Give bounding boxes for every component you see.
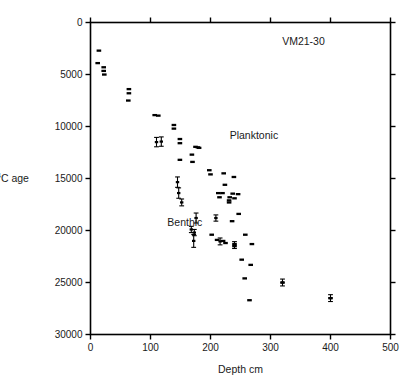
data-point xyxy=(216,192,221,194)
data-point xyxy=(220,192,225,194)
data-point xyxy=(197,147,202,149)
axis-ticks xyxy=(86,18,396,340)
planktonic-series-label: Planktonic xyxy=(230,129,278,141)
data-point xyxy=(126,99,131,101)
data-point xyxy=(329,297,332,299)
data-point xyxy=(190,161,195,163)
data-point xyxy=(281,281,284,283)
y-tick-label: 15000 xyxy=(55,173,83,184)
data-point xyxy=(232,197,237,199)
figure-container: 0100200300400500050001000015000200002500… xyxy=(0,0,418,387)
data-point xyxy=(178,138,183,140)
data-point xyxy=(227,201,232,203)
data-point xyxy=(172,124,177,126)
data-point xyxy=(239,259,244,261)
data-point xyxy=(192,240,195,242)
data-point xyxy=(227,196,232,198)
data-point xyxy=(207,169,212,171)
data-point xyxy=(221,172,226,174)
y-axis-title: 14C age xyxy=(0,172,29,184)
data-point xyxy=(230,220,235,222)
x-tick-label: 200 xyxy=(202,342,219,353)
series-planktonic xyxy=(95,49,332,301)
x-tick-label: 400 xyxy=(322,342,339,353)
x-tick-label: 100 xyxy=(142,342,159,353)
data-point xyxy=(160,140,163,142)
core-id-label: VM21-30 xyxy=(282,35,325,47)
plot-frame xyxy=(91,23,391,335)
y-tick-label: 25000 xyxy=(55,277,83,288)
data-point xyxy=(95,62,100,64)
data-point xyxy=(180,201,183,203)
data-point xyxy=(155,141,158,143)
x-axis-title: Depth cm xyxy=(218,363,263,375)
data-point xyxy=(102,73,107,75)
y-tick-label: 30000 xyxy=(55,329,83,340)
data-point xyxy=(214,217,217,219)
data-point xyxy=(101,70,106,72)
data-point xyxy=(242,277,247,279)
x-tick-label: 500 xyxy=(382,342,399,353)
data-point xyxy=(156,114,161,116)
data-point xyxy=(217,196,222,198)
x-tick-label: 300 xyxy=(262,342,279,353)
data-point xyxy=(243,234,248,236)
data-point xyxy=(223,242,228,244)
data-point xyxy=(227,199,232,201)
data-point xyxy=(177,192,180,194)
data-point xyxy=(236,193,241,195)
data-point xyxy=(127,88,132,90)
data-point xyxy=(178,159,183,161)
y-tick-label: 0 xyxy=(77,17,83,28)
data-point xyxy=(172,127,177,129)
axes-frame xyxy=(91,23,391,335)
data-point xyxy=(208,173,213,175)
data-point xyxy=(223,184,228,186)
data-point xyxy=(247,299,252,301)
data-point xyxy=(190,153,195,155)
data-point xyxy=(230,192,235,194)
data-point xyxy=(127,92,132,94)
data-point xyxy=(236,213,241,215)
benthic-series-label: Benthic xyxy=(167,216,202,228)
data-point xyxy=(250,243,255,245)
data-point xyxy=(101,66,106,68)
x-tick-label: 0 xyxy=(88,342,94,353)
data-point xyxy=(209,234,214,236)
data-point xyxy=(193,231,196,233)
data-point xyxy=(176,181,179,183)
data-point xyxy=(233,244,236,246)
plot-annotations: VM21-30PlanktonicBenthic xyxy=(167,35,325,228)
data-point xyxy=(178,142,183,144)
y-tick-label: 10000 xyxy=(55,121,83,132)
scatter-plot: 0100200300400500050001000015000200002500… xyxy=(0,0,418,387)
y-tick-label: 5000 xyxy=(60,69,83,80)
axis-titles: Depth cm14C age xyxy=(0,172,263,375)
data-point xyxy=(232,176,237,178)
data-point xyxy=(248,264,253,266)
data-point xyxy=(218,240,221,242)
y-tick-label: 20000 xyxy=(55,225,83,236)
data-points xyxy=(95,49,333,301)
data-point xyxy=(97,49,102,51)
